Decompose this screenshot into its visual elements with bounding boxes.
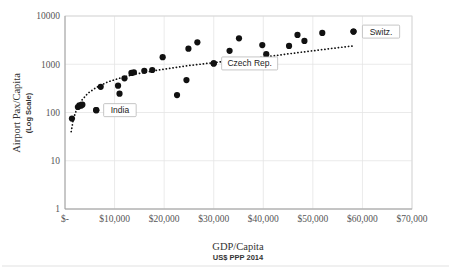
y-tick-label: 100 [46, 108, 61, 118]
point-callouts: IndiaCzech Rep.Switz. [93, 25, 400, 117]
data-point [263, 51, 269, 57]
x-axis-title: GDP/Capita [212, 241, 264, 252]
x-tick-label: $60,000 [347, 214, 378, 224]
data-point [183, 77, 189, 83]
callout-label: Switz. [370, 27, 393, 37]
data-point [121, 75, 127, 81]
data-point [98, 84, 104, 90]
x-tick-label: $40,000 [248, 214, 279, 224]
data-point [226, 48, 232, 54]
callout-label: Czech Rep. [227, 58, 271, 68]
data-point [194, 39, 200, 45]
data-point [294, 32, 300, 38]
callout-czech-rep: Czech Rep. [211, 57, 278, 70]
callout-label: India [111, 105, 130, 115]
x-tick-label: $10,000 [99, 214, 130, 224]
data-point [149, 67, 155, 73]
chart-canvas: $-$10,000$20,000$30,000$40,000$50,000$60… [0, 0, 451, 268]
data-point [236, 35, 242, 41]
y-tick-label: 10 [51, 156, 61, 166]
data-point [69, 115, 75, 121]
y-axis-title: Airport Pax/Capita [11, 73, 22, 153]
x-tick-label: $30,000 [198, 214, 229, 224]
callout-anchor-point [211, 60, 217, 66]
callout-anchor-point [350, 29, 356, 35]
y-tick-label: 1 [55, 204, 60, 214]
y-tick-label: 1000 [41, 60, 60, 70]
data-point [174, 92, 180, 98]
data-point [131, 69, 137, 75]
trendline [71, 46, 355, 132]
data-point [141, 68, 147, 74]
data-point [79, 102, 85, 108]
y-axis-subtitle: (Log Scale) [24, 92, 33, 133]
x-tick-label: $20,000 [149, 214, 180, 224]
data-point [160, 54, 166, 60]
x-tick-label: $50,000 [297, 214, 328, 224]
x-tick-label: $- [61, 214, 69, 224]
x-axis-subtitle: US$ PPP 2014 [213, 253, 264, 262]
scatter-chart: $-$10,000$20,000$30,000$40,000$50,000$60… [0, 0, 451, 268]
x-axis-ticks: $-$10,000$20,000$30,000$40,000$50,000$60… [61, 214, 428, 224]
data-point [301, 38, 307, 44]
trendline-path [71, 46, 355, 132]
data-point [319, 30, 325, 36]
data-point [259, 42, 265, 48]
data-point [115, 83, 121, 89]
y-axis-ticks: 110100100010000 [36, 11, 60, 214]
data-point [116, 91, 122, 97]
callout-switz: Switz. [350, 25, 399, 38]
y-tick-label: 10000 [36, 11, 60, 21]
x-tick-label: $70,000 [397, 214, 428, 224]
data-point [286, 43, 292, 49]
callout-anchor-point [93, 107, 99, 113]
data-point [185, 46, 191, 52]
callout-india: India [93, 104, 136, 117]
